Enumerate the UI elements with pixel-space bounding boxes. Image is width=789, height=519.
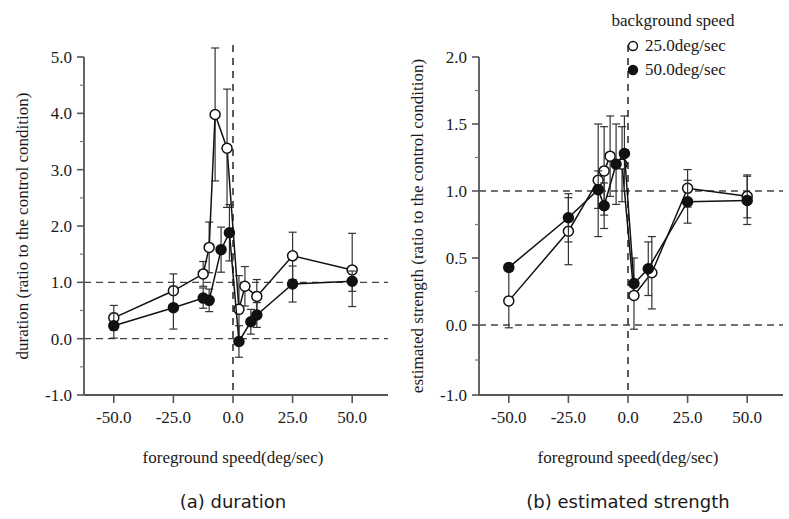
y-tick-label: 0.0 (51, 330, 72, 349)
data-point-filled-circle (599, 201, 609, 211)
data-point-filled-circle (643, 264, 653, 274)
legend-marker-filled-circle (629, 66, 638, 75)
x-tick-label: -25.0 (156, 408, 191, 427)
y-tick-label: 1.5 (446, 115, 467, 134)
legend-title: background speed (611, 11, 735, 30)
data-point-filled-circle (288, 279, 298, 289)
y-tick-label: 2.0 (51, 217, 72, 236)
data-point-filled-circle (504, 262, 514, 272)
data-point-filled-circle (619, 148, 629, 158)
data-point-open-circle (210, 109, 220, 119)
x-tick-label: -25.0 (551, 408, 586, 427)
x-tick-label: -50.0 (491, 408, 526, 427)
legend-label-2: 50.0deg/sec (645, 60, 726, 79)
data-point-open-circle (240, 281, 250, 291)
y-axis-title: estimated strength (ratio to the control… (408, 59, 427, 393)
legend-label-1: 25.0deg/sec (645, 36, 726, 55)
x-axis-title: foreground speed(deg/sec) (143, 448, 324, 467)
data-point-filled-circle (168, 303, 178, 313)
y-tick-label: 5.0 (51, 48, 72, 67)
panel-duration: -1.00.01.02.03.04.05.0-50.0-25.00.025.05… (0, 0, 394, 519)
data-point-open-circle (198, 269, 208, 279)
y-tick-label: 0.5 (446, 249, 467, 268)
figure-container: -1.00.01.02.03.04.05.0-50.0-25.00.025.05… (0, 0, 789, 519)
y-axis-title: duration (ratio to the control condition… (13, 93, 32, 360)
y-tick-label: 1.0 (51, 273, 72, 292)
data-point-filled-circle (563, 213, 573, 223)
data-point-filled-circle (234, 336, 244, 346)
duration-plot-svg: -1.00.01.02.03.04.05.0-50.0-25.00.025.05… (0, 0, 394, 519)
data-point-open-circle (204, 242, 214, 252)
data-point-open-circle (288, 251, 298, 261)
data-point-filled-circle (204, 295, 214, 305)
data-point-filled-circle (347, 276, 357, 286)
data-point-open-circle (222, 143, 232, 153)
x-tick-label: 0.0 (617, 408, 638, 427)
y-tick-label: -1.0 (440, 386, 467, 405)
x-tick-label: 25.0 (278, 408, 308, 427)
data-point-filled-circle (683, 197, 693, 207)
data-point-filled-circle (216, 245, 226, 255)
data-point-filled-circle (742, 195, 752, 205)
data-point-open-circle (252, 291, 262, 301)
y-tick-label: 1.0 (446, 182, 467, 201)
y-tick-label: -1.0 (45, 386, 72, 405)
y-tick-label: 2.0 (446, 48, 467, 67)
x-axis-title: foreground speed(deg/sec) (538, 448, 719, 467)
x-tick-label: 50.0 (337, 408, 367, 427)
data-point-filled-circle (252, 310, 262, 320)
x-tick-label: 0.0 (222, 408, 243, 427)
data-point-filled-circle (611, 159, 621, 169)
estimated-strength-plot-svg: -1.00.00.51.01.52.0-50.0-25.00.025.050.0… (395, 0, 789, 519)
data-point-filled-circle (629, 278, 639, 288)
plot-a-content: -1.00.01.02.03.04.05.0-50.0-25.00.025.05… (13, 45, 388, 512)
data-point-open-circle (629, 291, 639, 301)
panel-caption: (a) duration (180, 491, 287, 512)
panel-caption: (b) estimated strength (526, 491, 729, 512)
panel-estimated-strength: -1.00.00.51.01.52.0-50.0-25.00.025.050.0… (395, 0, 789, 519)
y-tick-label: 0.0 (446, 316, 467, 335)
data-point-filled-circle (109, 321, 119, 331)
y-tick-label: 4.0 (51, 104, 72, 123)
y-tick-label: 3.0 (51, 161, 72, 180)
series-line (114, 233, 352, 342)
x-tick-label: -50.0 (96, 408, 131, 427)
plot-b-content: -1.00.00.51.01.52.0-50.0-25.00.025.050.0… (408, 11, 783, 512)
legend: background speed25.0deg/sec50.0deg/sec (611, 11, 735, 79)
x-tick-label: 25.0 (673, 408, 703, 427)
data-point-filled-circle (224, 228, 234, 238)
legend-marker-open-circle (629, 42, 638, 51)
x-tick-label: 50.0 (732, 408, 762, 427)
data-point-open-circle (504, 296, 514, 306)
data-point-filled-circle (593, 185, 603, 195)
